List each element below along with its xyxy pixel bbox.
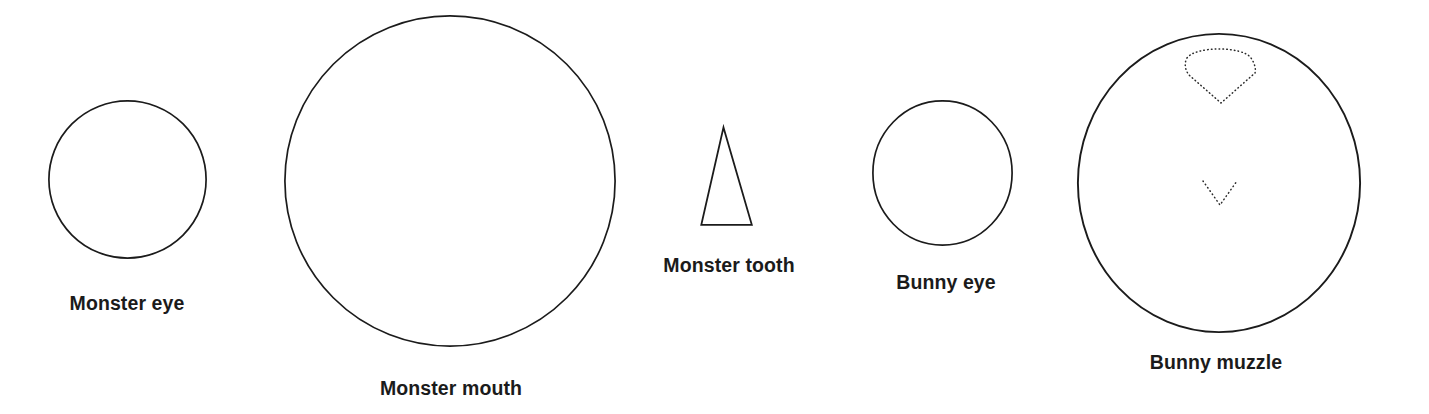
shape-bunny-muzzle <box>1077 33 1361 333</box>
label-bunny-eye: Bunny eye <box>896 271 996 294</box>
label-monster-eye: Monster eye <box>70 292 185 315</box>
shape-bunny-eye <box>872 100 1013 246</box>
bunny-eye-circle <box>872 100 1013 246</box>
label-monster-tooth: Monster tooth <box>663 254 794 277</box>
shape-monster-eye <box>48 100 207 259</box>
shape-monster-tooth <box>700 126 754 227</box>
monster-mouth-circle <box>284 15 616 347</box>
label-bunny-muzzle: Bunny muzzle <box>1150 351 1282 374</box>
monster-eye-circle <box>48 100 207 259</box>
pattern-sheet: Monster eye Monster mouth Monster tooth … <box>0 0 1429 414</box>
shape-monster-mouth <box>284 15 616 347</box>
monster-tooth-triangle <box>700 126 754 227</box>
label-monster-mouth: Monster mouth <box>380 377 522 400</box>
bunny-muzzle-circle <box>1077 33 1361 333</box>
